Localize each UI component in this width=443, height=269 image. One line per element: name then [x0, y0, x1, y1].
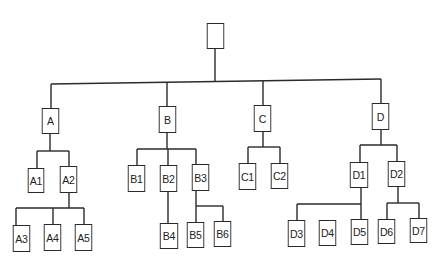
node-a3: A3: [13, 225, 30, 252]
node-label: A1: [30, 175, 42, 187]
node-label: A2: [62, 174, 74, 186]
node-c1: C1: [239, 163, 256, 190]
node-label: B3: [194, 172, 206, 184]
node-b4: B4: [160, 223, 178, 249]
node-b5: B5: [187, 222, 204, 248]
node-label: D7: [412, 225, 425, 237]
node-d3: D3: [288, 220, 305, 247]
node-a4: A4: [44, 224, 61, 251]
node-label: D4: [321, 227, 334, 239]
node-b6: B6: [214, 221, 231, 247]
node-label: A5: [77, 232, 89, 244]
node-b2: B2: [160, 165, 177, 192]
node-label: B: [164, 114, 171, 126]
node-label: C1: [241, 171, 254, 183]
node-c: C: [254, 105, 271, 132]
node-a5: A5: [75, 224, 92, 251]
node-label: A4: [46, 232, 58, 244]
node-label: A3: [15, 233, 27, 245]
node-d1: D1: [350, 162, 368, 188]
node-label: B1: [130, 173, 142, 185]
node-label: D1: [353, 169, 366, 181]
node-a1: A1: [28, 168, 45, 193]
node-label: D5: [353, 226, 366, 238]
node-label: C: [259, 113, 266, 125]
node-label: D6: [380, 226, 393, 238]
tree-diagram: ABCDA1A2A3A4A5B1B2B3B4B5B6C1C2D1D2D3D4D5…: [0, 0, 443, 269]
node-b3: B3: [192, 164, 209, 191]
node-label: D: [377, 111, 384, 123]
node-label: B2: [162, 173, 174, 185]
node-root: [207, 23, 224, 49]
node-d4: D4: [319, 220, 336, 246]
node-d7: D7: [410, 218, 427, 243]
node-b1: B1: [128, 165, 145, 192]
node-a: A: [42, 108, 59, 134]
node-label: B6: [216, 228, 228, 240]
node-label: D2: [390, 168, 403, 180]
node-d2: D2: [388, 161, 405, 187]
node-label: B4: [163, 230, 175, 242]
node-c2: C2: [271, 163, 288, 189]
connector-line: [51, 79, 381, 84]
node-label: D3: [290, 228, 303, 240]
node-d5: D5: [351, 219, 368, 245]
node-label: B5: [189, 229, 201, 241]
node-b: B: [159, 106, 176, 133]
node-label: C2: [273, 170, 286, 182]
node-d: D: [372, 103, 389, 130]
node-a2: A2: [60, 166, 77, 193]
node-label: A: [47, 115, 54, 127]
node-d6: D6: [378, 219, 395, 244]
